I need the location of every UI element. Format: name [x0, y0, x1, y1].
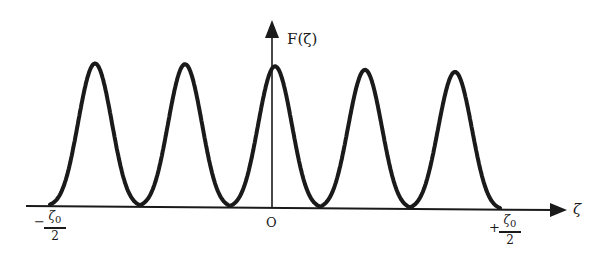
- y-axis-label: F(ζ): [287, 30, 317, 48]
- right-tick-numerator: ζ0: [504, 214, 517, 230]
- x-axis-arrow-icon: [550, 203, 567, 217]
- function-curve: [50, 64, 500, 209]
- left-tick-denominator: 2: [51, 230, 59, 243]
- x-axis: [26, 206, 556, 210]
- right-tick-fraction: ζ0 2: [499, 214, 521, 247]
- origin-label: O: [266, 215, 277, 230]
- left-tick-numerator: ζ0: [49, 210, 62, 226]
- x-axis-label: ζ: [573, 200, 581, 218]
- right-tick-denominator: 2: [506, 234, 514, 247]
- left-tick-fraction: ζ0 2: [44, 210, 66, 243]
- y-axis-arrow-icon: [265, 20, 279, 38]
